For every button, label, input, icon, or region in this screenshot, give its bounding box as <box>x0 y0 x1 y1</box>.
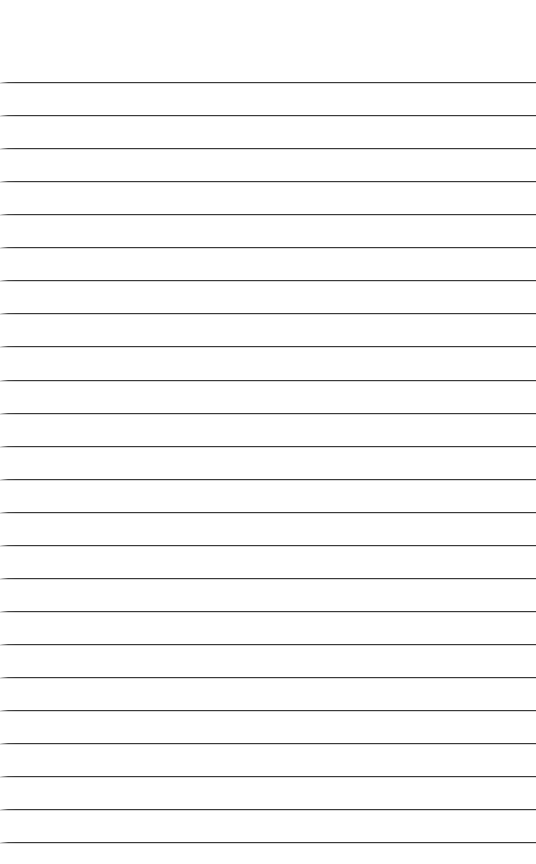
lined-paper-page <box>0 0 536 864</box>
paper-sheet[interactable] <box>0 0 536 864</box>
bottom-margin <box>0 843 536 864</box>
top-margin <box>0 0 536 81</box>
